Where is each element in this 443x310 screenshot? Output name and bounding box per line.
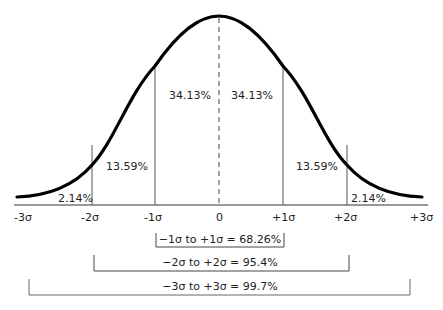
bell-curve [17,16,422,197]
region-label-right-mid: 13.59% [296,160,338,173]
tick-zero: 0 [216,211,223,224]
tick-plus-2-sigma: +2σ [334,211,357,224]
tick-minus-1-sigma: -1σ [144,211,162,224]
range-label-2-sigma: −2σ to +2σ = 95.4% [162,256,278,269]
region-label-left-center: 34.13% [169,89,211,102]
range-label-1-sigma: −1σ to +1σ = 68.26% [159,233,282,246]
region-label-right-tail: 2.14% [351,192,386,205]
tick-plus-3-sigma: +3σ [410,211,433,224]
region-label-left-tail: 2.14% [58,192,93,205]
region-label-right-center: 34.13% [231,89,273,102]
normal-distribution-diagram: 2.14% 13.59% 34.13% 34.13% 13.59% 2.14% … [0,0,443,310]
tick-plus-1-sigma: +1σ [272,211,295,224]
range-label-3-sigma: −3σ to +3σ = 99.7% [162,280,278,293]
tick-minus-2-sigma: -2σ [81,211,99,224]
tick-minus-3-sigma: -3σ [14,211,32,224]
region-label-left-mid: 13.59% [106,160,148,173]
